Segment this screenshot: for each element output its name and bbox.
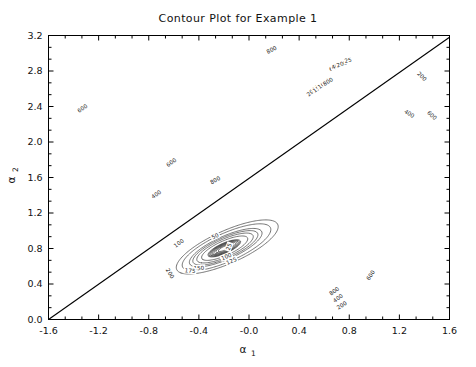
- y-axis-tick-label: 2.8: [27, 65, 42, 76]
- y-axis-tick-label: 1.6: [27, 172, 42, 183]
- x-axis-title-base: α: [240, 343, 247, 355]
- y-axis-tick-label: 2.4: [27, 101, 42, 112]
- y-axis-tick-label: 2.0: [27, 136, 42, 147]
- x-axis-tick-label: 0.4: [292, 325, 307, 336]
- x-axis-tick-label: -0.8: [139, 325, 158, 336]
- x-axis-tick-label: 1.6: [442, 325, 457, 336]
- x-axis-tick-label: -0.0: [240, 325, 259, 336]
- y-axis-tick-label: 0.4: [27, 278, 42, 289]
- contour-label: 175: [183, 267, 196, 275]
- x-axis-tick-label: 0.8: [342, 325, 357, 336]
- contour-label-text: 175: [184, 267, 196, 274]
- x-axis-tick-label: 1.2: [392, 325, 407, 336]
- x-axis-tick-label: -1.6: [39, 325, 58, 336]
- y-axis-title-subscript: 2: [11, 167, 20, 172]
- figure-background: [0, 0, 476, 367]
- x-axis-tick-label: -1.2: [89, 325, 108, 336]
- page-title: Contour Plot for Example 1: [159, 12, 318, 25]
- y-axis-title-base: α: [5, 176, 17, 183]
- y-axis-tick-label: 1.2: [27, 207, 42, 218]
- y-axis-tick-label: 0.0: [27, 314, 42, 325]
- y-axis-tick-label: 3.2: [27, 30, 42, 41]
- x-axis-title-subscript: 1: [251, 349, 256, 358]
- plot-canvas: Contour Plot for Example 1 6006004008008…: [0, 0, 476, 367]
- contour-plot-figure: Contour Plot for Example 1 6006004008008…: [0, 0, 476, 367]
- x-axis-tick-label: -0.4: [190, 325, 209, 336]
- y-axis-tick-label: 0.8: [27, 243, 42, 254]
